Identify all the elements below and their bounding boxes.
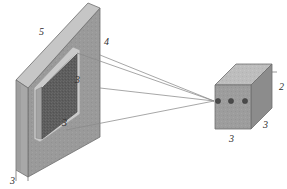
cube-front-face xyxy=(215,85,251,129)
callout-label-3-screen-lower: 3 xyxy=(62,118,67,128)
aperture-dot-1 xyxy=(215,98,220,103)
callout-label-3-screen-upper: 3 xyxy=(75,75,80,85)
ray-line-2 xyxy=(100,55,214,101)
panel-left-edge-shade xyxy=(17,82,21,172)
aperture-dot-2 xyxy=(228,98,233,103)
callout-label-3-cube-bottom: 3 xyxy=(229,134,234,144)
callout-label-4: 4 xyxy=(104,37,109,47)
technical-diagram-figure: 5 4 3 3 3 2 3 3 xyxy=(0,0,287,189)
callout-label-5: 5 xyxy=(39,27,44,37)
callout-label-3-panel-base: 3 xyxy=(10,176,15,186)
aperture-dot-3 xyxy=(242,98,247,103)
callout-label-2-cube: 2 xyxy=(279,82,284,92)
inner-screen-side-face xyxy=(36,87,42,139)
callout-label-3-cube-right: 3 xyxy=(263,120,268,130)
